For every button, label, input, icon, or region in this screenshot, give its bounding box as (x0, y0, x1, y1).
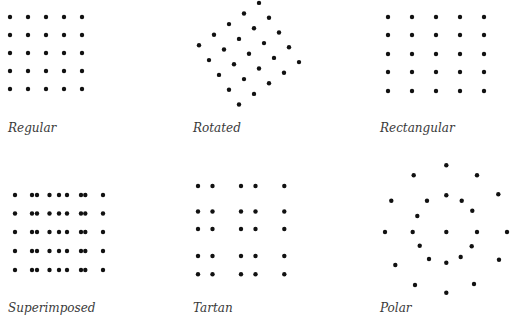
rectangular-dot (458, 89, 462, 93)
tartan-dot (210, 254, 214, 258)
tartan-dot (239, 184, 243, 188)
superimposed-dot-grid-a (57, 230, 61, 234)
rotated-dot (247, 52, 251, 56)
superimposed-dot-grid-b (30, 230, 34, 234)
regular-dot (8, 33, 12, 37)
label-regular: Regular (7, 121, 58, 135)
superimposed-dot-grid-a (79, 230, 83, 234)
polar-dot (496, 192, 500, 196)
rotated-dot (272, 56, 276, 60)
regular-dot (8, 15, 12, 19)
polar-dot (383, 230, 387, 234)
rectangular-dot (458, 70, 462, 74)
superimposed-dot-grid-a (101, 193, 105, 197)
polar-dot (444, 193, 448, 197)
superimposed-dot-grid-b (30, 249, 34, 253)
panel-superimposed (13, 193, 105, 272)
superimposed-dot-grid-a (13, 249, 17, 253)
rotated-dot (237, 37, 241, 41)
polar-dot (411, 230, 415, 234)
superimposed-dot-grid-b (83, 249, 87, 253)
polar-dot (425, 199, 429, 203)
superimposed-dot-grid-a (57, 268, 61, 272)
rotated-dot (297, 60, 301, 64)
tartan-dot (282, 227, 286, 231)
superimposed-dot-grid-a (57, 211, 61, 215)
rectangular-dot (458, 15, 462, 19)
regular-dot (80, 33, 84, 37)
superimposed-dot-grid-a (13, 230, 17, 234)
rotated-dot (242, 11, 246, 15)
tartan-dot (282, 184, 286, 188)
polar-dot (415, 214, 419, 218)
grid-types-diagram: Regular Rotated Rectangular Superimposed… (0, 0, 514, 316)
tartan-dot (210, 184, 214, 188)
superimposed-dot-grid-a (101, 211, 105, 215)
rectangular-dot (410, 33, 414, 37)
superimposed-dot-grid-a (13, 268, 17, 272)
superimposed-dot-grid-b (30, 193, 34, 197)
rectangular-dot (458, 52, 462, 56)
panel-polar (383, 163, 509, 295)
polar-dot (470, 244, 474, 248)
superimposed-dot-grid-b (83, 193, 87, 197)
rotated-dot (252, 26, 256, 30)
polar-dot (389, 199, 393, 203)
superimposed-dot-grid-a (101, 268, 105, 272)
rectangular-dot (386, 52, 390, 56)
superimposed-dot-grid-a (35, 211, 39, 215)
polar-dot (427, 257, 431, 261)
label-rotated: Rotated (192, 121, 241, 135)
polar-dot (413, 283, 417, 287)
rotated-dot (257, 66, 261, 70)
regular-dot (26, 51, 30, 55)
rectangular-dot (482, 52, 486, 56)
rectangular-dot (482, 70, 486, 74)
superimposed-dot-grid-a (79, 211, 83, 215)
superimposed-dot-grid-a (13, 211, 17, 215)
regular-dot (26, 33, 30, 37)
regular-dot (44, 15, 48, 19)
rotated-dot (212, 33, 216, 37)
polar-dot (393, 263, 397, 267)
tartan-dot (253, 227, 257, 231)
regular-dot (8, 69, 12, 73)
rectangular-dot (434, 52, 438, 56)
rotated-dot (222, 47, 226, 51)
rotated-dot (257, 1, 261, 5)
label-tartan: Tartan (193, 301, 233, 315)
polar-dot (472, 282, 476, 286)
tartan-dot (210, 227, 214, 231)
polar-dot (497, 258, 501, 262)
rotated-dot (242, 77, 246, 81)
rotated-dot (197, 43, 201, 47)
polar-dot (475, 173, 479, 177)
regular-dot (62, 15, 66, 19)
panel-tartan (196, 184, 287, 277)
regular-dot (62, 33, 66, 37)
tartan-dot (210, 272, 214, 276)
rectangular-dot (434, 70, 438, 74)
rotated-dot (287, 45, 291, 49)
superimposed-dot-grid-b (47, 193, 51, 197)
rotated-dot (227, 22, 231, 26)
regular-dot (8, 51, 12, 55)
superimposed-dot-grid-a (35, 249, 39, 253)
rectangular-dot (434, 33, 438, 37)
regular-dot (80, 15, 84, 19)
regular-dot (80, 87, 84, 91)
polar-dot (505, 230, 509, 234)
superimposed-dot-grid-b (47, 230, 51, 234)
superimposed-dot-grid-b (65, 268, 69, 272)
polar-dot (475, 230, 479, 234)
regular-dot (8, 87, 12, 91)
superimposed-dot-grid-a (101, 230, 105, 234)
polar-dot (444, 230, 448, 234)
superimposed-dot-grid-a (57, 249, 61, 253)
rotated-dot (267, 81, 271, 85)
regular-dot (80, 51, 84, 55)
superimposed-dot-grid-a (101, 249, 105, 253)
superimposed-dot-grid-a (35, 230, 39, 234)
rotated-dot (232, 62, 236, 66)
rotated-dot (267, 16, 271, 20)
